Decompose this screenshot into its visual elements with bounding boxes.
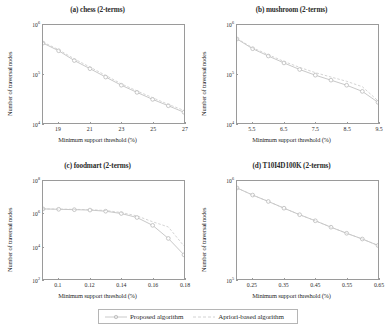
x-tick-mark [379, 122, 380, 125]
y-tick-mark [42, 247, 44, 248]
x-tick-label: 21 [87, 126, 93, 132]
plot-area-d [236, 180, 379, 280]
y-axis-label-a: Number of traversal nodes [6, 52, 13, 116]
x-tick-label: 27 [182, 126, 188, 132]
x-tick-mark [315, 278, 316, 281]
y-tick-label: 106 [208, 20, 234, 28]
y-tick-mark [42, 180, 44, 181]
plot-lines-d [237, 181, 378, 279]
x-tick-mark [153, 122, 154, 125]
x-tick-mark [315, 122, 316, 125]
x-tick-label: 0.18 [180, 282, 190, 288]
x-tick-label: 0.25 [247, 282, 257, 288]
legend-sample-apriori [193, 313, 215, 321]
chart-panel-a: (a) chess (2-terms) Number of traversal … [0, 6, 195, 156]
y-tick-mark [42, 280, 44, 281]
y-tick-mark [236, 124, 238, 125]
plot-area-c [42, 180, 185, 280]
y-tick-mark [236, 280, 238, 281]
chart-panel-b: (b) mushroom (2-terms) Number of travers… [194, 6, 389, 156]
y-tick-label: 104 [14, 120, 40, 128]
y-tick-mark [42, 213, 44, 214]
x-tick-label: 0.1 [54, 282, 61, 288]
y-tick-label: 106 [14, 20, 40, 28]
figure-legend: Proposed algorithm Apriori-based algorit… [98, 309, 298, 324]
x-tick-label: 19 [55, 126, 61, 132]
x-tick-label: 0.12 [85, 282, 95, 288]
chart-title-c: (c) foodmart (2-terms) [0, 162, 195, 170]
y-axis-label-b: Number of traversal nodes [200, 52, 207, 116]
x-tick-mark [185, 122, 186, 125]
x-tick-mark [347, 122, 348, 125]
x-tick-mark [252, 122, 253, 125]
legend-sample-proposed [105, 313, 127, 321]
x-tick-mark [121, 122, 122, 125]
legend-label-apriori: Apriori-based algorithm [218, 313, 284, 321]
chart-title-a: (a) chess (2-terms) [0, 6, 195, 14]
legend-entry-proposed: Proposed algorithm [105, 313, 183, 321]
x-tick-mark [90, 122, 91, 125]
legend-entry-apriori: Apriori-based algorithm [193, 313, 284, 321]
chart-title-b: (b) mushroom (2-terms) [194, 6, 389, 14]
plot-lines-b [237, 25, 378, 123]
x-tick-label: 9.5 [375, 126, 382, 132]
y-tick-label: 105 [14, 70, 40, 78]
x-tick-label: 6.5 [280, 126, 287, 132]
x-tick-label: 0.14 [116, 282, 126, 288]
y-tick-label: 106 [14, 209, 40, 217]
x-tick-label: 0.16 [148, 282, 158, 288]
x-tick-mark [379, 278, 380, 281]
plot-lines-c [43, 181, 184, 279]
y-tick-mark [236, 180, 238, 181]
x-tick-label: 0.65 [374, 282, 384, 288]
y-tick-label: 104 [14, 243, 40, 251]
x-tick-mark [252, 278, 253, 281]
y-axis-label-d: Number of traversal nodes [200, 208, 207, 272]
x-axis-label-d: Minimum support threshold (%) [194, 292, 389, 299]
x-tick-label: 0.45 [310, 282, 320, 288]
x-tick-label: 0.35 [279, 282, 289, 288]
x-tick-mark [284, 122, 285, 125]
x-tick-label: 25 [150, 126, 156, 132]
y-tick-label: 106 [208, 176, 234, 184]
plot-area-b [236, 24, 379, 124]
x-tick-mark [153, 278, 154, 281]
y-tick-mark [236, 24, 238, 25]
x-tick-label: 0.55 [342, 282, 352, 288]
y-tick-label: 105 [208, 276, 234, 284]
x-tick-label: 23 [118, 126, 124, 132]
x-tick-mark [58, 122, 59, 125]
x-axis-label-b: Minimum support threshold (%) [194, 136, 389, 143]
y-axis-label-c: Number of traversal nodes [6, 208, 13, 272]
x-tick-mark [58, 278, 59, 281]
y-tick-label: 108 [14, 176, 40, 184]
y-tick-mark [236, 74, 238, 75]
y-tick-mark [42, 24, 44, 25]
x-tick-mark [347, 278, 348, 281]
x-tick-mark [284, 278, 285, 281]
x-tick-mark [185, 278, 186, 281]
y-tick-mark [42, 124, 44, 125]
chart-title-d: (d) T10I4D100K (2-terms) [194, 162, 389, 170]
y-tick-mark [42, 74, 44, 75]
x-tick-label: 5.5 [248, 126, 255, 132]
chart-panel-c: (c) foodmart (2-terms) Number of travers… [0, 162, 195, 312]
chart-panel-d: (d) T10I4D100K (2-terms) Number of trave… [194, 162, 389, 312]
plot-lines-a [43, 25, 184, 123]
y-tick-label: 105 [208, 70, 234, 78]
x-tick-mark [121, 278, 122, 281]
x-tick-mark [90, 278, 91, 281]
figure-root: (a) chess (2-terms) Number of traversal … [0, 0, 389, 336]
y-tick-label: 102 [14, 276, 40, 284]
plot-area-a [42, 24, 185, 124]
legend-label-proposed: Proposed algorithm [130, 313, 183, 321]
x-tick-label: 7.5 [312, 126, 319, 132]
x-axis-label-a: Minimum support threshold (%) [0, 136, 195, 143]
x-tick-label: 8.5 [344, 126, 351, 132]
x-axis-label-c: Minimum support threshold (%) [0, 292, 195, 299]
y-tick-label: 104 [208, 120, 234, 128]
